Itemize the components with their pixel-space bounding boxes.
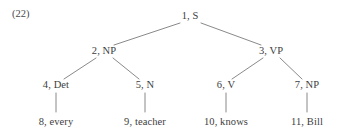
tree-node-4: 4, Det: [43, 80, 69, 91]
tree-node-8: 8, every: [39, 117, 74, 128]
tree-node-2: 2, NP: [92, 46, 116, 57]
tree-node-5: 5, N: [136, 80, 154, 91]
tree-node-10: 10, knows: [204, 117, 248, 128]
tree-node-6: 6, V: [217, 80, 235, 91]
example-number: (22): [12, 9, 30, 20]
tree-node-7: 7, NP: [295, 80, 319, 91]
syntax-tree-figure: (22) 1, S2, NP3, VP4, Det5, N6, V7, NP8,…: [0, 0, 342, 135]
tree-edge: [113, 58, 139, 79]
tree-edge: [201, 23, 261, 45]
tree-edge: [64, 58, 96, 79]
tree-node-1: 1, S: [182, 11, 199, 22]
tree-edge-layer: [0, 0, 342, 135]
tree-edge: [280, 58, 302, 79]
tree-edge: [232, 58, 263, 79]
tree-node-3: 3, VP: [259, 46, 283, 57]
tree-node-11: 11, Bill: [291, 117, 323, 128]
tree-node-9: 9, teacher: [124, 117, 166, 128]
tree-edge: [114, 23, 180, 45]
